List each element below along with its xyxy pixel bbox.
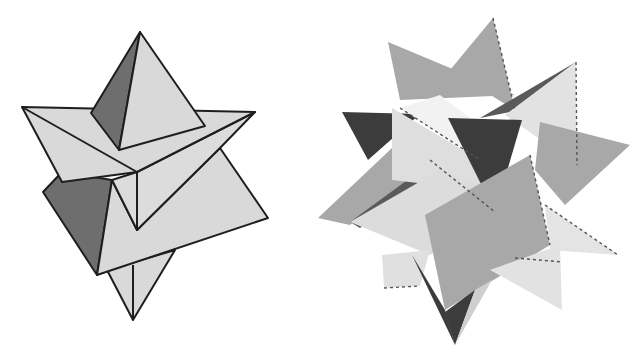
right-spike xyxy=(535,122,630,205)
stella-octangula-drawing xyxy=(0,0,300,360)
five-tetrahedra-drawing xyxy=(300,0,643,360)
stella-octangula-figure xyxy=(0,0,300,360)
bottom-left-light-panel xyxy=(382,250,430,288)
five-tetrahedra-compound-figure xyxy=(300,0,643,360)
